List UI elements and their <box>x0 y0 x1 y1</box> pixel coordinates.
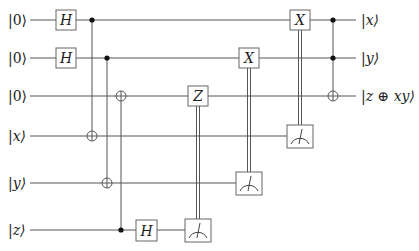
svg-text:H: H <box>59 12 73 28</box>
input-label-x: |x⟩ <box>8 128 26 144</box>
svg-text:X: X <box>243 50 255 66</box>
control-dot <box>104 55 109 60</box>
output-label-x: |x⟩ <box>361 12 379 28</box>
output-label-y: |y⟩ <box>361 50 379 66</box>
input-label-q2: |0⟩ <box>8 88 27 104</box>
control-dot <box>89 17 94 22</box>
quantum-circuit: H H H Z X X <box>0 0 419 251</box>
input-label-z: |z⟩ <box>8 222 26 238</box>
control-dot <box>118 227 123 232</box>
input-label-q0: |0⟩ <box>8 12 27 28</box>
svg-text:Z: Z <box>192 88 203 104</box>
control-dot <box>330 55 335 60</box>
svg-text:H: H <box>59 50 73 66</box>
control-dot <box>330 17 335 22</box>
svg-text:X: X <box>294 12 306 28</box>
output-label-z-xor-xy: |z ⊕ xy⟩ <box>361 88 415 104</box>
input-label-q1: |0⟩ <box>8 50 27 66</box>
svg-text:H: H <box>139 223 153 239</box>
input-label-y: |y⟩ <box>8 175 26 191</box>
